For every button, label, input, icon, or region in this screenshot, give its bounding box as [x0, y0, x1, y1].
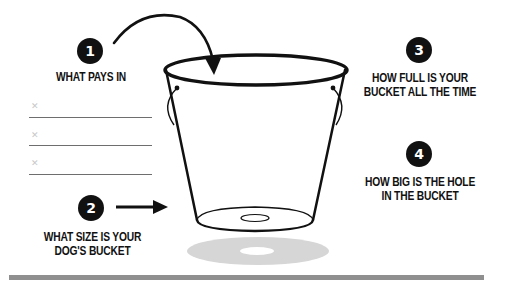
step-badge-2: 2: [78, 195, 104, 221]
step-3-label: HOW FULL IS YOUR BUCKET ALL THE TIME: [363, 71, 478, 99]
bucket-diagram: 1 WHAT PAYS IN ✕ ✕ ✕ 2 WHAT SIZE IS YOUR…: [0, 0, 505, 286]
bucket-rim: [165, 55, 347, 85]
fill-in-line-1[interactable]: [29, 117, 152, 118]
step-2-label: WHAT SIZE IS YOUR DOG'S BUCKET: [33, 230, 152, 258]
bucket-hole: [241, 215, 269, 222]
x-mark-icon: ✕: [31, 159, 39, 168]
step-2-label-line: DOG'S BUCKET: [33, 244, 152, 258]
step-badge-4: 4: [406, 141, 432, 167]
step-badge-1: 1: [77, 38, 103, 64]
fill-in-line-2[interactable]: [29, 145, 152, 146]
fill-in-line-3[interactable]: [29, 174, 152, 175]
x-mark-icon: ✕: [31, 131, 39, 140]
step-3-label-line: BUCKET ALL THE TIME: [363, 85, 478, 99]
step-3-label-line: HOW FULL IS YOUR: [363, 71, 478, 85]
step-4-label-line: IN THE BUCKET: [363, 189, 478, 203]
bucket-handles: [168, 86, 342, 125]
bucket-shadow: [187, 237, 329, 265]
step-2-label-line: WHAT SIZE IS YOUR: [33, 230, 152, 244]
step-1-label: WHAT PAYS IN: [41, 70, 141, 84]
step-badge-3: 3: [406, 37, 432, 63]
step-4-label-line: HOW BIG IS THE HOLE: [363, 175, 478, 189]
x-mark-icon: ✕: [31, 102, 39, 111]
step-4-label: HOW BIG IS THE HOLE IN THE BUCKET: [363, 175, 478, 203]
bucket-body: [165, 55, 347, 231]
bottom-divider: [9, 275, 484, 280]
right-arrow-icon: [116, 200, 168, 214]
step-1-label-line: WHAT PAYS IN: [41, 70, 141, 84]
